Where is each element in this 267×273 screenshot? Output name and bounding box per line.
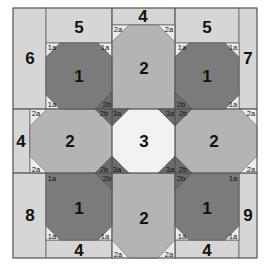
label-1a: 1a — [178, 43, 187, 52]
label-1a: 1a — [229, 232, 238, 241]
label-1a: 1a — [48, 232, 57, 241]
label-4-left: 4 — [16, 132, 26, 151]
label-1-top-left: 1 — [74, 67, 83, 86]
label-2a: 2a — [32, 165, 41, 174]
label-1a: 1a — [48, 100, 57, 109]
label-1a: 1a — [101, 43, 110, 52]
label-3a: 3a — [113, 165, 122, 174]
label-1a: 1a — [178, 232, 187, 241]
label-7: 7 — [243, 49, 252, 68]
label-2b: 2b — [177, 174, 185, 183]
label-3a: 3a — [166, 109, 175, 118]
label-4-bottom-left: 4 — [74, 241, 84, 260]
label-2b: 2b — [100, 109, 108, 118]
label-3a: 3a — [113, 109, 122, 118]
label-2-right: 2 — [209, 132, 218, 151]
label-1a: 1a — [101, 232, 110, 241]
label-1-bottom-left: 1 — [74, 199, 83, 218]
label-1a: 1a — [48, 174, 57, 183]
label-3-center: 3 — [139, 132, 148, 151]
label-2-left: 2 — [65, 132, 74, 151]
label-1-bottom-right: 1 — [202, 199, 211, 218]
label-2b: 2b — [100, 165, 108, 174]
label-2a: 2a — [247, 109, 256, 118]
label-2-bottom: 2 — [139, 209, 148, 228]
label-2b: 2b — [177, 100, 185, 109]
label-2a: 2a — [114, 25, 123, 34]
label-2b: 2b — [179, 109, 187, 118]
label-2-top: 2 — [139, 59, 148, 78]
quilt-block-diagram: 6 5 4 5 7 1 2 1 4 2 3 2 8 1 2 1 9 4 4 1a… — [0, 0, 267, 273]
label-6: 6 — [25, 49, 34, 68]
label-1a: 1a — [229, 43, 238, 52]
label-2b: 2b — [179, 165, 187, 174]
label-2a: 2a — [247, 165, 256, 174]
label-1a: 1a — [229, 100, 238, 109]
label-2a: 2a — [32, 109, 41, 118]
label-4-top: 4 — [138, 7, 148, 26]
label-2a: 2a — [165, 25, 174, 34]
label-3a: 3a — [166, 165, 175, 174]
label-2b: 2b — [103, 100, 111, 109]
label-9: 9 — [243, 206, 252, 225]
label-1-top-right: 1 — [202, 67, 211, 86]
label-2b: 2b — [103, 174, 111, 183]
label-2a: 2a — [114, 250, 123, 259]
label-2a: 2a — [165, 250, 174, 259]
label-1a: 1a — [48, 43, 57, 52]
label-1a: 1a — [229, 174, 238, 183]
label-8: 8 — [25, 206, 34, 225]
label-5-right: 5 — [202, 18, 211, 37]
label-5-left: 5 — [74, 18, 83, 37]
label-4-bottom-right: 4 — [202, 241, 212, 260]
